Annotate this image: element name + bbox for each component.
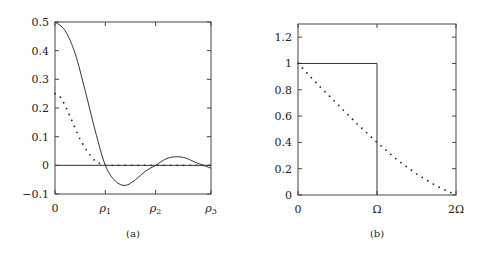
data-point	[395, 158, 397, 160]
y-tick-label: 0.4	[275, 136, 293, 149]
y-tick-label: 1	[285, 57, 292, 70]
x-tick-label: Ω	[372, 203, 381, 216]
y-tick-label: 0.6	[275, 110, 293, 123]
y-tick-label: 0.3	[32, 73, 50, 86]
data-point	[68, 114, 70, 116]
y-tick-label: 0.2	[32, 102, 50, 115]
x-tick-label: 0	[295, 203, 302, 216]
data-point	[74, 126, 76, 128]
x-tick-label: 2Ω	[448, 203, 464, 216]
data-point	[356, 123, 358, 125]
data-point	[297, 63, 299, 65]
x-tick-label: ρ3	[204, 202, 217, 216]
data-point	[400, 162, 402, 164]
data-point	[319, 86, 321, 88]
data-point	[416, 173, 418, 175]
data-point	[361, 127, 363, 129]
y-tick-label: −0.1	[22, 188, 49, 201]
panel-label: (a)	[126, 228, 140, 239]
data-point	[99, 163, 101, 165]
data-point	[352, 118, 354, 120]
data-point	[370, 136, 372, 138]
data-point	[54, 93, 56, 95]
data-point	[66, 108, 68, 110]
y-tick-label: 0	[42, 159, 49, 172]
plot-frame	[55, 22, 211, 194]
data-point	[324, 91, 326, 93]
x-tick-label: 0	[52, 202, 59, 215]
panel-a-plot: −0.100.10.20.30.40.50ρ1ρ2ρ3(a)	[22, 16, 217, 239]
data-point	[306, 72, 308, 74]
data-point	[71, 120, 73, 122]
data-point	[302, 67, 304, 69]
data-point	[375, 141, 377, 143]
data-point	[333, 100, 335, 102]
data-point	[444, 189, 446, 191]
y-tick-label: 0.5	[32, 16, 50, 29]
x-tick-label: ρ1	[99, 202, 112, 216]
data-point	[438, 186, 440, 188]
series-line	[298, 63, 377, 195]
y-tick-label: 0.8	[275, 84, 293, 97]
data-point	[405, 165, 407, 167]
data-point	[427, 180, 429, 182]
data-point	[385, 149, 387, 151]
y-tick-label: 0.2	[275, 163, 293, 176]
y-tick-label: 0.4	[32, 45, 50, 58]
data-point	[310, 77, 312, 79]
data-point	[59, 96, 61, 98]
data-point	[63, 102, 65, 104]
data-point	[85, 149, 87, 151]
data-point	[450, 192, 452, 194]
data-point	[93, 159, 95, 161]
data-point	[432, 183, 434, 185]
y-tick-label: 0.1	[32, 131, 50, 144]
data-point	[342, 109, 344, 111]
data-point	[76, 131, 78, 133]
data-point	[79, 137, 81, 139]
data-point	[390, 153, 392, 155]
data-point	[380, 145, 382, 147]
figure: −0.100.10.20.30.40.50ρ1ρ2ρ3(a) 00.20.40.…	[0, 0, 479, 259]
data-point	[366, 132, 368, 134]
panel-b-plot: 00.20.40.60.811.20Ω2Ω(b)	[275, 24, 465, 239]
data-point	[329, 95, 331, 97]
data-point	[411, 169, 413, 171]
y-tick-label: 1.2	[275, 31, 293, 44]
data-point	[315, 82, 317, 84]
data-point	[421, 176, 423, 178]
y-tick-label: 0	[285, 189, 292, 202]
x-tick-label: ρ2	[149, 202, 162, 216]
data-point	[82, 143, 84, 145]
series-line	[55, 22, 211, 185]
data-point	[89, 154, 91, 156]
panel-label: (b)	[370, 228, 384, 239]
data-point	[347, 114, 349, 116]
data-point	[338, 105, 340, 107]
